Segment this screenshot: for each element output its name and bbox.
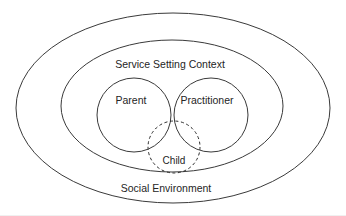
practitioner-circle [174,78,248,152]
social-environment-label: Social Environment [121,182,212,194]
bottom-edge-divider [0,215,346,216]
service-setting-context-label: Service Setting Context [115,58,225,70]
nested-venn-diagram: Service Setting Context Parent Practitio… [0,0,346,216]
parent-label: Parent [116,94,147,106]
diagram-canvas: Service Setting Context Parent Practitio… [0,0,346,216]
child-label: Child [163,155,186,166]
parent-circle [97,78,171,152]
practitioner-label: Practitioner [180,94,234,106]
